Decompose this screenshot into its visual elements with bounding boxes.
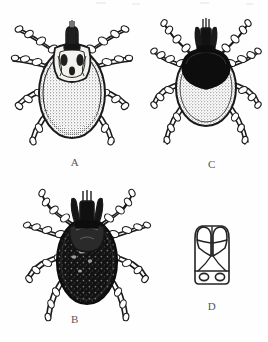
tick-figure-b xyxy=(22,183,152,323)
tick-figure-a xyxy=(8,8,136,154)
illustration-plate: A xyxy=(0,0,268,342)
figure-label-b: B xyxy=(65,313,85,325)
figure-label-c: C xyxy=(202,158,222,170)
panel-b: B xyxy=(22,183,152,323)
scan-artifact xyxy=(200,2,209,4)
scan-artifact xyxy=(96,2,106,4)
panel-d: D xyxy=(186,222,238,322)
panel-a: A xyxy=(8,8,136,154)
tick-figure-c xyxy=(150,14,262,154)
scan-artifact xyxy=(132,3,140,5)
scan-artifact xyxy=(246,3,253,5)
panel-c: C xyxy=(150,14,262,154)
figure-label-d: D xyxy=(202,300,222,312)
figure-label-a: A xyxy=(65,156,85,168)
